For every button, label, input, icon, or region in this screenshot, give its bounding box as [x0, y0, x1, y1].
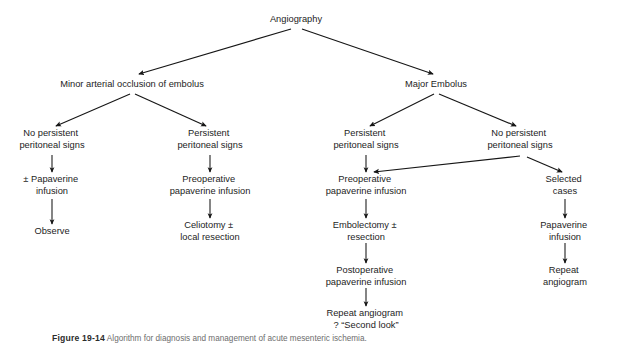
edge-major-embolus-to-persistent — [370, 94, 434, 126]
node-col2-celiotomy-local-resection: Celiotomy ± local resection — [180, 220, 239, 242]
node-col4-selected-cases: Selected cases — [546, 174, 585, 196]
node-col1-papaverine-infusion: ± Papaverine infusion — [23, 174, 80, 196]
edge-major-embolus-to-no-persistent — [439, 94, 516, 126]
figure-caption-text: Algorithm for diagnosis and management o… — [105, 334, 367, 343]
node-col3-postoperative-papaverine-infusion: Postoperative papaverine infusion — [326, 265, 407, 287]
figure-canvas: Angiography Minor arterial occlusion of … — [0, 0, 618, 345]
node-col3-preoperative-papaverine-infusion: Preoperative papaverine infusion — [326, 174, 407, 196]
edge-no-persistent-to-selected-cases — [527, 157, 562, 172]
edge-angiography-to-minor-occlusion — [139, 29, 291, 74]
edge-layer — [52, 29, 565, 306]
node-col4-no-persistent-peritoneal-signs: No persistent peritoneal signs — [487, 128, 552, 150]
node-minor-arterial-occlusion: Minor arterial occlusion of embolus — [60, 79, 204, 89]
flowchart-diagram: Angiography Minor arterial occlusion of … — [0, 0, 618, 345]
node-col4-repeat-angiogram: Repeat angiogram — [543, 265, 587, 287]
figure-caption: Figure 19-14 Algorithm for diagnosis and… — [52, 333, 612, 344]
node-col3-embolectomy-resection: Embolectomy ± resection — [333, 220, 400, 242]
node-angiography: Angiography — [270, 14, 323, 24]
figure-number: Figure 19-14 — [52, 333, 105, 343]
node-col4-papaverine-infusion: Papaverine infusion — [540, 220, 590, 242]
node-col1-observe: Observe — [34, 226, 69, 236]
edge-no-persistent-to-preop-long — [374, 156, 520, 172]
node-col3-persistent-peritoneal-signs: Persistent peritoneal signs — [333, 128, 398, 150]
node-col3-repeat-angiogram-second-look: Repeat angiogram ? “Second look” — [326, 308, 405, 330]
node-layer: Angiography Minor arterial occlusion of … — [19, 14, 589, 330]
node-col2-persistent-peritoneal-signs: Persistent peritoneal signs — [177, 128, 242, 150]
edge-angiography-to-major-embolus — [302, 29, 433, 74]
node-major-embolus: Major Embolus — [405, 79, 467, 89]
edge-minor-occlusion-to-no-persistent — [56, 94, 130, 126]
node-col1-no-persistent-peritoneal-signs: No persistent peritoneal signs — [19, 128, 84, 150]
edge-minor-occlusion-to-persistent — [135, 94, 206, 126]
node-col2-preoperative-papaverine-infusion: Preoperative papaverine infusion — [170, 174, 251, 196]
